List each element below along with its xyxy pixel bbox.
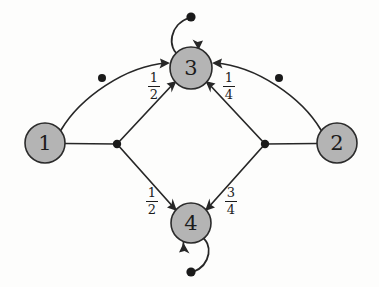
- node-2[interactable]: 2: [317, 123, 357, 163]
- node-1-label: 1: [38, 131, 51, 155]
- arrowhead-left-junction-into-4: [167, 199, 177, 212]
- edge-label-lower-left-numerator: 1: [139, 186, 165, 200]
- edge-1-to-left-junction: [65, 144, 117, 145]
- node-1[interactable]: 1: [25, 123, 65, 163]
- edge-label-upper-right-denominator: 4: [216, 88, 242, 102]
- node-3[interactable]: 3: [170, 47, 212, 89]
- arrowhead-right-junction-into-4: [205, 199, 215, 212]
- edge-label-upper-left: 1 2: [141, 71, 167, 101]
- node-3-label: 3: [184, 56, 197, 80]
- node-2-label: 2: [330, 131, 343, 155]
- edge-label-lower-left: 1 2: [139, 186, 165, 216]
- edge-label-lower-right-numerator: 3: [218, 186, 244, 200]
- edge-label-lower-left-denominator: 2: [139, 203, 165, 217]
- loop-3-origin-dot: [186, 12, 195, 21]
- loop-4-origin-dot: [186, 267, 195, 276]
- diagram-canvas: 1 2 3 4: [0, 0, 379, 287]
- edge-label-lower-right-denominator: 4: [218, 203, 244, 217]
- arrowhead-loop-into-4: [179, 243, 190, 254]
- right-arc-dot: [275, 74, 283, 82]
- edge-2-to-right-junction: [265, 144, 317, 145]
- edge-label-upper-left-denominator: 2: [141, 88, 167, 102]
- edge-label-lower-right: 3 4: [218, 186, 244, 216]
- node-4-label: 4: [184, 211, 197, 235]
- right-junction-dot: [261, 140, 269, 148]
- left-junction-dot: [113, 140, 121, 148]
- node-4[interactable]: 4: [171, 203, 211, 243]
- transition-diagram: 1 2 3 4 1 2 1 4 1 2 3 4: [0, 0, 379, 287]
- edge-label-upper-right: 1 4: [216, 71, 242, 101]
- left-arc-dot: [98, 74, 106, 82]
- edge-label-upper-right-numerator: 1: [216, 71, 242, 85]
- edge-label-upper-left-numerator: 1: [141, 71, 167, 85]
